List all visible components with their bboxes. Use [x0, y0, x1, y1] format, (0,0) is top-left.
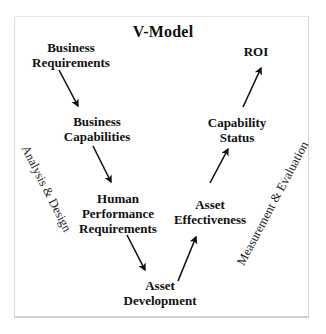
arrow-capability-status-to-roi [243, 68, 261, 107]
arrow-business-requirements-to-business-capabilities [59, 70, 78, 106]
arrow-asset-development-to-asset-effectiveness [178, 237, 196, 281]
arrow-asset-effectiveness-to-capability-status [210, 149, 228, 183]
arrows-layer [0, 0, 326, 334]
arrow-human-performance-to-asset-development [127, 235, 145, 270]
arrow-business-capabilities-to-human-performance [93, 146, 111, 182]
